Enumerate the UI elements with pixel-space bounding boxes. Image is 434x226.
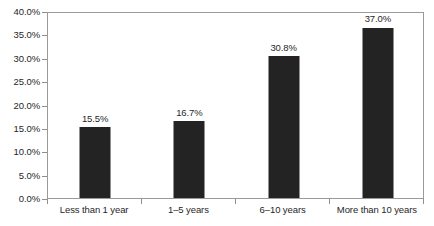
x-tick-label: Less than 1 year	[60, 204, 129, 216]
cropped-caption-remnant	[8, 218, 258, 224]
plot-inner: 15.5% 16.7% 30.8% 37.0%	[48, 13, 423, 198]
bar-group: 16.7%	[142, 13, 236, 198]
bar-value-label: 15.5%	[82, 113, 108, 124]
bar[interactable]	[174, 121, 205, 198]
x-tick-label: 1–5 years	[168, 204, 209, 216]
bar-group: 30.8%	[237, 13, 331, 198]
y-tick-label: 25.0%	[0, 77, 40, 87]
bar-value-label: 16.7%	[176, 107, 202, 118]
bar-chart-figure: 40.0% 35.0% 30.0% 25.0% 20.0% 15.0% 10.0…	[0, 0, 434, 226]
y-tick-label: 10.0%	[0, 147, 40, 157]
y-tick-label: 5.0%	[0, 171, 40, 181]
y-tick-label: 30.0%	[0, 54, 40, 64]
y-tick-label: 20.0%	[0, 101, 40, 111]
y-tick-label: 15.0%	[0, 124, 40, 134]
x-tick-mark	[47, 199, 48, 204]
bar-value-label: 30.8%	[270, 42, 296, 53]
bar[interactable]	[268, 56, 299, 198]
x-tick-mark	[329, 199, 330, 204]
bar-group: 37.0%	[331, 13, 425, 198]
y-tick-label: 40.0%	[0, 7, 40, 17]
bar-group: 15.5%	[48, 13, 142, 198]
x-tick-label: More than 10 years	[337, 204, 417, 216]
x-tick-mark	[141, 199, 142, 204]
x-tick-mark	[423, 199, 424, 204]
bar[interactable]	[362, 28, 393, 198]
y-axis: 40.0% 35.0% 30.0% 25.0% 20.0% 15.0% 10.0…	[0, 0, 47, 226]
bar-value-label: 37.0%	[365, 13, 391, 24]
x-tick-mark	[235, 199, 236, 204]
plot-area: 15.5% 16.7% 30.8% 37.0%	[47, 12, 424, 199]
x-tick-label: 6–10 years	[260, 204, 306, 216]
y-tick-label: 35.0%	[0, 30, 40, 40]
bar[interactable]	[80, 127, 111, 198]
y-tick-label: 0.0%	[0, 194, 40, 204]
